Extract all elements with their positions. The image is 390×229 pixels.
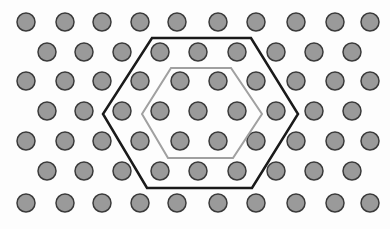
atom-circle — [247, 13, 265, 31]
atom-circle — [131, 194, 149, 212]
atom-lattice — [17, 13, 379, 212]
atom-circle — [267, 102, 285, 120]
atom-circle — [209, 132, 227, 150]
atom-circle — [228, 162, 246, 180]
atom-circle — [343, 43, 361, 61]
atom-circle — [93, 72, 111, 90]
atom-circle — [75, 102, 93, 120]
atom-circle — [267, 162, 285, 180]
atom-circle — [151, 102, 169, 120]
atom-circle — [113, 43, 131, 61]
atom-circle — [75, 43, 93, 61]
atom-circle — [326, 194, 344, 212]
atom-circle — [287, 13, 305, 31]
atom-circle — [228, 102, 246, 120]
atom-circle — [38, 43, 56, 61]
atom-circle — [56, 194, 74, 212]
atom-circle — [171, 132, 189, 150]
atom-circle — [113, 162, 131, 180]
atom-circle — [56, 132, 74, 150]
atom-circle — [287, 72, 305, 90]
atom-circle — [287, 132, 305, 150]
atom-circle — [56, 72, 74, 90]
atom-circle — [305, 43, 323, 61]
atom-circle — [247, 132, 265, 150]
atom-circle — [17, 194, 35, 212]
atom-circle — [326, 72, 344, 90]
atom-circle — [113, 102, 131, 120]
atom-circle — [38, 162, 56, 180]
atom-circle — [326, 13, 344, 31]
atom-circle — [93, 194, 111, 212]
atom-circle — [287, 194, 305, 212]
atom-circle — [343, 102, 361, 120]
atom-circle — [168, 13, 186, 31]
atom-circle — [326, 132, 344, 150]
atom-circle — [75, 162, 93, 180]
atom-circle — [247, 72, 265, 90]
atom-circle — [189, 162, 207, 180]
atom-circle — [305, 102, 323, 120]
atom-circle — [56, 13, 74, 31]
atom-circle — [131, 72, 149, 90]
atom-circle — [267, 43, 285, 61]
lattice-svg — [0, 0, 390, 229]
lattice-diagram — [0, 0, 390, 229]
atom-circle — [38, 102, 56, 120]
atom-circle — [17, 13, 35, 31]
atom-circle — [151, 162, 169, 180]
atom-circle — [189, 43, 207, 61]
atom-circle — [131, 132, 149, 150]
atom-circle — [361, 132, 379, 150]
atom-circle — [247, 194, 265, 212]
atom-circle — [209, 194, 227, 212]
atom-circle — [361, 13, 379, 31]
atom-circle — [168, 194, 186, 212]
atom-circle — [93, 13, 111, 31]
atom-circle — [151, 43, 169, 61]
atom-circle — [131, 13, 149, 31]
atom-circle — [361, 194, 379, 212]
atom-circle — [228, 43, 246, 61]
atom-circle — [305, 162, 323, 180]
atom-circle — [17, 132, 35, 150]
atom-circle — [209, 72, 227, 90]
atom-circle — [171, 72, 189, 90]
atom-circle — [209, 13, 227, 31]
atom-circle — [343, 162, 361, 180]
atom-circle — [189, 102, 207, 120]
atom-circle — [93, 132, 111, 150]
atom-circle — [361, 72, 379, 90]
atom-circle — [17, 72, 35, 90]
